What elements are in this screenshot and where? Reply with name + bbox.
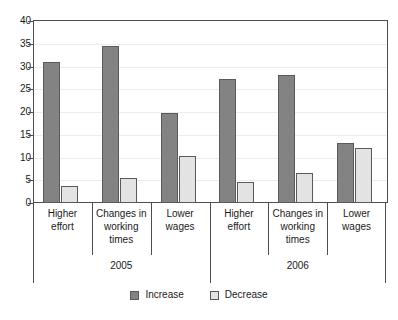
- x-axis-label-line: Changes in: [92, 207, 151, 220]
- x-axis-category-label: Changes inworkingtimes: [268, 203, 327, 255]
- group-separator: [33, 255, 34, 283]
- category-separator: [92, 203, 93, 255]
- x-axis-category-label: Highereffort: [210, 203, 269, 255]
- x-axis-label-line: Higher: [33, 207, 92, 220]
- bar-decrease: [61, 186, 78, 203]
- bar-increase: [161, 113, 178, 203]
- bars-layer: [34, 21, 387, 203]
- bar-decrease: [296, 173, 313, 203]
- x-axis-category-label: Highereffort: [33, 203, 92, 255]
- bar-decrease: [355, 148, 372, 204]
- bar-increase: [278, 75, 295, 203]
- category-separator: [210, 203, 211, 255]
- legend-label: Increase: [145, 290, 183, 300]
- x-axis-category-labels: HighereffortChanges inworkingtimesLowerw…: [33, 203, 388, 255]
- x-axis-label-line: Lower: [327, 207, 386, 220]
- legend-swatch-increase: [130, 291, 139, 300]
- x-axis-label-line: effort: [33, 220, 92, 233]
- x-axis-category-label: Lowerwages: [327, 203, 386, 255]
- bar-decrease: [120, 178, 137, 203]
- bar-increase: [43, 62, 60, 204]
- x-axis-category-label: Lowerwages: [151, 203, 210, 255]
- bar-increase: [219, 79, 236, 203]
- category-separator: [327, 203, 328, 255]
- x-axis-group-labels: 20052006: [33, 255, 388, 283]
- x-axis-label-line: Higher: [210, 207, 269, 220]
- category-separator: [151, 203, 152, 255]
- category-separator: [268, 203, 269, 255]
- bar-increase: [102, 46, 119, 203]
- legend-swatch-decrease: [210, 291, 219, 300]
- x-axis-label-line: working: [268, 220, 327, 233]
- category-separator: [385, 203, 386, 255]
- x-axis-group-label: 2005: [33, 255, 210, 283]
- x-axis-label-line: Changes in: [268, 207, 327, 220]
- x-axis-label-line: wages: [327, 220, 386, 233]
- legend-item: Increase: [130, 290, 183, 300]
- bar-decrease: [237, 182, 254, 203]
- bar-increase: [337, 143, 354, 203]
- x-axis-label-line: times: [268, 233, 327, 246]
- bar-chart: 0510152025303540 HighereffortChanges inw…: [0, 0, 398, 320]
- group-separator: [210, 255, 211, 283]
- bar-decrease: [179, 156, 196, 203]
- x-axis-label-line: Lower: [151, 207, 210, 220]
- legend-label: Decrease: [225, 290, 268, 300]
- category-separator: [33, 203, 34, 255]
- x-axis-label-line: times: [92, 233, 151, 246]
- x-axis-label-line: wages: [151, 220, 210, 233]
- x-axis-label-line: working: [92, 220, 151, 233]
- legend-item: Decrease: [210, 290, 268, 300]
- x-axis-group-label: 2006: [210, 255, 387, 283]
- x-axis-category-label: Changes inworkingtimes: [92, 203, 151, 255]
- x-axis-label-line: effort: [210, 220, 269, 233]
- group-separator: [385, 255, 386, 283]
- legend: IncreaseDecrease: [0, 290, 398, 300]
